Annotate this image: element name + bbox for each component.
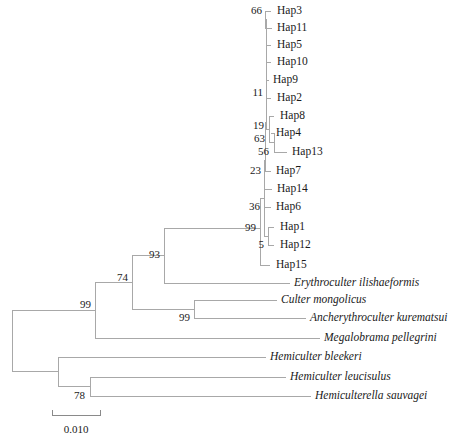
tree-canvas: Hap3Hap11Hap5Hap10Hap9Hap2Hap8Hap4Hap13H… bbox=[0, 0, 451, 444]
bootstrap-support-label: 56 bbox=[258, 145, 270, 157]
bootstrap-support-label: 63 bbox=[254, 132, 266, 144]
bootstrap-support-label: 78 bbox=[74, 389, 86, 401]
tip-label: Hap10 bbox=[277, 55, 308, 68]
branch-layer bbox=[12, 11, 320, 396]
bootstrap-support-label: 99 bbox=[80, 298, 92, 310]
tip-label: Hap4 bbox=[276, 126, 301, 139]
tip-label: Hemiculterella sauvagei bbox=[314, 389, 427, 402]
scale-bar-label: 0.010 bbox=[64, 423, 89, 435]
tip-label: Hap11 bbox=[277, 21, 307, 34]
bootstrap-support-label: 74 bbox=[117, 271, 129, 283]
tip-label: Hap3 bbox=[277, 4, 302, 17]
tip-label: Hap2 bbox=[277, 91, 302, 104]
tip-label: Hap8 bbox=[280, 109, 305, 122]
tip-label: Ancherythroculter kurematsui bbox=[309, 311, 447, 324]
tip-label: Hap5 bbox=[277, 38, 302, 51]
support-label-layer: 661156631923536999399749978 bbox=[74, 4, 270, 401]
tip-label: Hemiculter leucisulus bbox=[289, 370, 391, 382]
bootstrap-support-label: 23 bbox=[250, 164, 262, 176]
bootstrap-support-label: 5 bbox=[259, 238, 265, 250]
tip-label: Hap9 bbox=[273, 73, 298, 86]
bootstrap-support-label: 11 bbox=[252, 86, 263, 98]
scale-bar-layer: 0.010 bbox=[52, 410, 100, 435]
tip-label: Hap1 bbox=[280, 220, 305, 233]
bootstrap-support-label: 36 bbox=[249, 200, 261, 212]
tip-label: Hap15 bbox=[276, 258, 307, 271]
tip-label: Megalobrama pellegrini bbox=[323, 331, 437, 344]
tip-label-layer: Hap3Hap11Hap5Hap10Hap9Hap2Hap8Hap4Hap13H… bbox=[269, 4, 447, 402]
tip-label: Hap6 bbox=[276, 200, 301, 213]
tip-label: Hap14 bbox=[277, 182, 308, 195]
tip-label: Hemiculter bleekeri bbox=[269, 350, 362, 362]
bootstrap-support-label: 19 bbox=[253, 119, 265, 131]
bootstrap-support-label: 93 bbox=[149, 248, 161, 260]
tip-label: Erythroculter ilishaeformis bbox=[293, 276, 420, 289]
tip-label: Hap12 bbox=[280, 238, 311, 251]
bootstrap-support-label: 99 bbox=[245, 221, 257, 233]
scale-bar-line bbox=[52, 410, 100, 415]
tip-label: Culter mongolicus bbox=[281, 293, 367, 306]
bootstrap-support-label: 66 bbox=[251, 4, 263, 16]
tip-label: Hap13 bbox=[292, 145, 323, 158]
tip-label: Hap7 bbox=[276, 164, 301, 177]
bootstrap-support-label: 99 bbox=[179, 311, 191, 323]
phylogenetic-tree-figure: Hap3Hap11Hap5Hap10Hap9Hap2Hap8Hap4Hap13H… bbox=[0, 0, 451, 444]
